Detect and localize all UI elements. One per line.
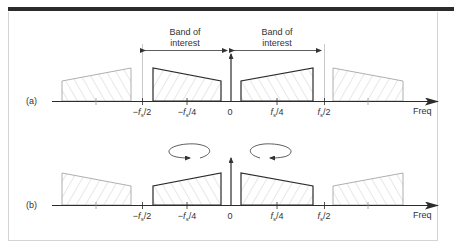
band-right-label-line1: Band of xyxy=(261,27,293,37)
tick-label-neg-fs2: −fs/2 xyxy=(133,107,151,118)
panel-a-label: (a) xyxy=(26,96,37,106)
panel-b-label: (b) xyxy=(26,200,37,210)
tick-label-neg-fs4: −fs/4 xyxy=(178,107,196,118)
figure-frame xyxy=(8,12,438,241)
spectrum-right-b xyxy=(241,173,313,205)
tick-label-pos-fs2: fs/2 xyxy=(317,107,330,118)
spectrum-left-b xyxy=(153,173,221,205)
tick-label-neg-fs2-b: −fs/2 xyxy=(133,211,151,222)
band-left-label-line2: interest xyxy=(170,38,200,48)
tick-label-zero: 0 xyxy=(227,107,232,117)
spectrum-diagram: (a) Band of interest Band of interest xyxy=(0,0,454,251)
axis-label-freq-a: Freq xyxy=(413,106,432,116)
spectrum-left xyxy=(153,68,221,101)
band-right-label-line2: interest xyxy=(262,38,292,48)
faded-spectrum-right xyxy=(333,68,403,101)
faded-spectrum-right-b xyxy=(333,173,403,205)
tick-label-pos-fs4-b: fs/4 xyxy=(270,211,283,222)
band-left-label-line1: Band of xyxy=(169,27,201,37)
rotate-cw-arrow-icon xyxy=(250,144,291,158)
axis-label-freq-b: Freq xyxy=(413,210,432,220)
panel-b: (b) −fs/2 −fs/4 0 fs/4 fs/2 Freq xyxy=(26,144,438,222)
spectrum-right xyxy=(241,68,313,101)
faded-spectrum-left-b xyxy=(62,173,131,205)
faded-spectrum-left xyxy=(62,68,131,101)
rotate-ccw-arrow-icon xyxy=(169,144,210,158)
tick-label-pos-fs4: fs/4 xyxy=(270,107,283,118)
panel-a: (a) Band of interest Band of interest xyxy=(26,27,438,118)
tick-label-neg-fs4-b: −fs/4 xyxy=(178,211,196,222)
tick-label-zero-b: 0 xyxy=(227,211,232,221)
tick-label-pos-fs2-b: fs/2 xyxy=(317,211,330,222)
